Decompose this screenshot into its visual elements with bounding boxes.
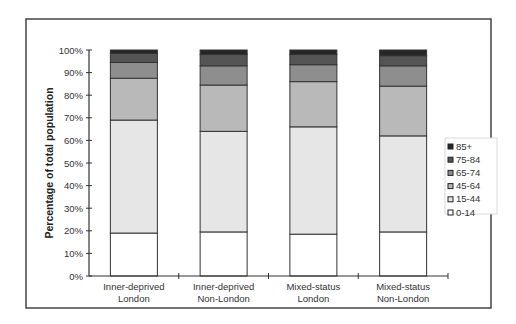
bar-segment-0-14 [290, 234, 337, 276]
legend-label: 0-14 [456, 207, 475, 218]
bar-segment-65-74 [200, 66, 247, 85]
y-tick-label: 90% [64, 67, 84, 78]
bar-segment-65-74 [290, 65, 337, 82]
y-tick-label: 100% [59, 45, 84, 56]
legend-label: 45-64 [456, 180, 480, 191]
bar-segment-15-44 [110, 120, 157, 233]
bar-segment-15-44 [200, 131, 247, 232]
x-tick-label: Non-London [377, 293, 429, 304]
legend-swatch-65-74 [448, 170, 453, 175]
legend-swatch-75-84 [448, 157, 453, 162]
bar-segment-45-64 [290, 82, 337, 127]
legend-swatch-85plus [448, 144, 453, 149]
x-tick-label: Mixed-status [286, 281, 340, 292]
y-tick-label: 80% [64, 90, 84, 101]
y-tick-label: 30% [64, 203, 84, 214]
bar-segment-45-64 [380, 86, 427, 136]
x-tick-label: Non-London [197, 293, 249, 304]
bar-segment-0-14 [380, 232, 427, 276]
x-tick-label: Mixed-status [376, 281, 430, 292]
x-tick-label: London [298, 293, 330, 304]
bar-segment-15-44 [290, 127, 337, 234]
legend-label: 75-84 [456, 154, 480, 165]
legend-swatch-15-44 [448, 197, 453, 202]
bar-segment-0-14 [110, 233, 157, 276]
y-tick-label: 50% [64, 158, 84, 169]
bar-segment-0-14 [200, 232, 247, 276]
bar-segment-85plus [380, 50, 427, 56]
bar-segment-75-84 [380, 56, 427, 66]
legend-swatch-45-64 [448, 184, 453, 189]
y-axis-title: Percentage of total population [43, 87, 55, 238]
x-tick-label: Inner-deprived [193, 281, 254, 292]
y-tick-label: 0% [69, 271, 83, 282]
bar-segment-45-64 [110, 78, 157, 120]
legend-label: 85+ [456, 141, 473, 152]
bar-segment-75-84 [110, 53, 157, 62]
stacked-bar-chart: Inner-deprivedLondonInner-deprivedNon-Lo… [0, 0, 516, 324]
y-tick-label: 20% [64, 225, 84, 236]
y-tick-label: 10% [64, 248, 84, 259]
y-tick-label: 60% [64, 135, 84, 146]
y-tick-label: 70% [64, 112, 84, 123]
bar-segment-45-64 [200, 85, 247, 131]
bar-segment-75-84 [290, 55, 337, 65]
y-tick-label: 40% [64, 180, 84, 191]
bar-segment-65-74 [110, 62, 157, 78]
bar-segment-85plus [290, 50, 337, 55]
legend-swatch-0-14 [448, 210, 453, 215]
bar-segment-75-84 [200, 55, 247, 66]
legend-label: 15-44 [456, 193, 480, 204]
bar-segment-65-74 [380, 66, 427, 86]
bar-segment-85plus [110, 50, 157, 53]
legend-label: 65-74 [456, 167, 480, 178]
x-tick-label: Inner-deprived [103, 281, 164, 292]
x-tick-label: London [118, 293, 150, 304]
legend: 85+75-8465-7445-6415-440-14 [445, 138, 497, 218]
bar-segment-85plus [200, 50, 247, 55]
bar-segment-15-44 [380, 136, 427, 232]
